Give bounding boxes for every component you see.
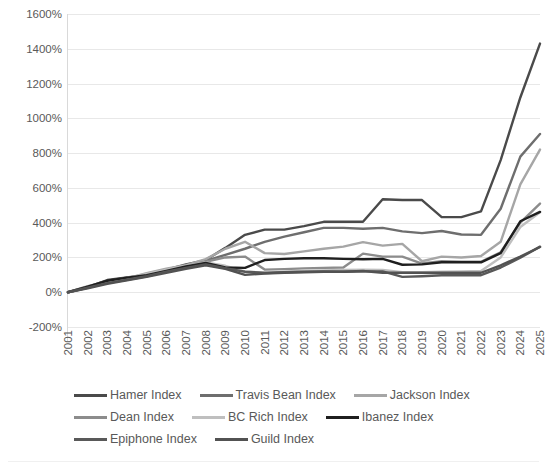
y-axis-tick-label: 0% xyxy=(45,286,62,298)
series-line xyxy=(68,44,540,293)
legend-row: Hamer IndexTravis Bean IndexJackson Inde… xyxy=(74,384,540,406)
x-axis-tick-label: 2005 xyxy=(141,330,153,356)
x-axis-tick-label: 2009 xyxy=(219,330,231,356)
x-axis-tick-label: 2018 xyxy=(396,330,408,356)
y-axis-tick-label: 1400% xyxy=(26,43,62,55)
x-axis-tick-label: 2003 xyxy=(101,330,113,356)
x-axis-tick-label: 2015 xyxy=(337,330,349,356)
legend-item[interactable]: Dean Index xyxy=(74,410,174,424)
y-axis-tick-label: 1200% xyxy=(26,78,62,90)
x-axis-tick-label: 2023 xyxy=(495,330,507,356)
x-axis-tick-label: 2001 xyxy=(62,330,74,356)
y-axis-tick-label: 1000% xyxy=(26,112,62,124)
legend-swatch xyxy=(74,438,107,441)
series-container xyxy=(68,14,540,327)
legend-swatch xyxy=(354,394,387,397)
legend-label: Hamer Index xyxy=(110,388,182,402)
bottom-divider xyxy=(8,461,539,462)
x-axis-tick-label: 2022 xyxy=(475,330,487,356)
legend-swatch xyxy=(200,394,233,397)
x-axis-tick-label: 2017 xyxy=(377,330,389,356)
legend-swatch xyxy=(74,416,107,419)
x-axis-tick-label: 2011 xyxy=(259,330,271,355)
legend-item[interactable]: Epiphone Index xyxy=(74,432,197,446)
legend-label: Epiphone Index xyxy=(110,432,197,446)
x-axis-tick-label: 2010 xyxy=(239,330,251,356)
y-axis-tick-label: 800% xyxy=(33,147,62,159)
x-axis-tick-label: 2014 xyxy=(318,330,330,356)
y-axis-tick-label: 600% xyxy=(33,182,62,194)
y-axis: 1600%1400%1200%1000%800%600%400%200%0%-2… xyxy=(0,0,62,474)
legend-swatch xyxy=(326,416,359,419)
x-axis-tick-label: 2016 xyxy=(357,330,369,356)
series-line xyxy=(68,247,540,292)
legend-label: Travis Bean Index xyxy=(236,388,336,402)
x-axis-tick-label: 2012 xyxy=(278,330,290,356)
x-axis-tick-label: 2021 xyxy=(455,330,467,356)
legend-swatch xyxy=(192,416,225,419)
legend-label: Guild Index xyxy=(251,432,314,446)
legend-label: Dean Index xyxy=(110,410,174,424)
line-chart: 1600%1400%1200%1000%800%600%400%200%0%-2… xyxy=(0,0,547,474)
legend-item[interactable]: Guild Index xyxy=(215,432,314,446)
x-axis-tick-label: 2004 xyxy=(121,330,133,356)
x-axis-tick-label: 2007 xyxy=(180,330,192,356)
chart-legend: Hamer IndexTravis Bean IndexJackson Inde… xyxy=(74,384,540,450)
x-axis-tick-label: 2002 xyxy=(82,330,94,356)
y-axis-tick-label: 400% xyxy=(33,217,62,229)
legend-item[interactable]: BC Rich Index xyxy=(192,410,308,424)
legend-item[interactable]: Jackson Index xyxy=(354,388,470,402)
x-axis-tick-label: 2025 xyxy=(534,330,546,356)
x-axis-tick-label: 2008 xyxy=(200,330,212,356)
x-axis: 2001200220032004200520062007200820092010… xyxy=(68,330,540,378)
x-axis-tick-label: 2006 xyxy=(160,330,172,356)
y-axis-tick-label: -200% xyxy=(29,321,62,333)
legend-label: Jackson Index xyxy=(390,388,470,402)
x-axis-tick-label: 2020 xyxy=(436,330,448,356)
gridline xyxy=(68,327,540,328)
legend-label: Ibanez Index xyxy=(362,410,434,424)
x-axis-tick-label: 2013 xyxy=(298,330,310,356)
legend-row: Dean IndexBC Rich IndexIbanez Index xyxy=(74,406,540,428)
legend-row: Epiphone IndexGuild Index xyxy=(74,428,540,450)
legend-item[interactable]: Ibanez Index xyxy=(326,410,434,424)
legend-label: BC Rich Index xyxy=(228,410,308,424)
x-axis-tick-label: 2019 xyxy=(416,330,428,356)
y-axis-tick-label: 200% xyxy=(33,251,62,263)
legend-item[interactable]: Travis Bean Index xyxy=(200,388,336,402)
legend-swatch xyxy=(215,438,248,441)
x-axis-tick-label: 2024 xyxy=(514,330,526,356)
y-axis-tick-label: 1600% xyxy=(26,8,62,20)
legend-item[interactable]: Hamer Index xyxy=(74,388,182,402)
legend-swatch xyxy=(74,394,107,397)
